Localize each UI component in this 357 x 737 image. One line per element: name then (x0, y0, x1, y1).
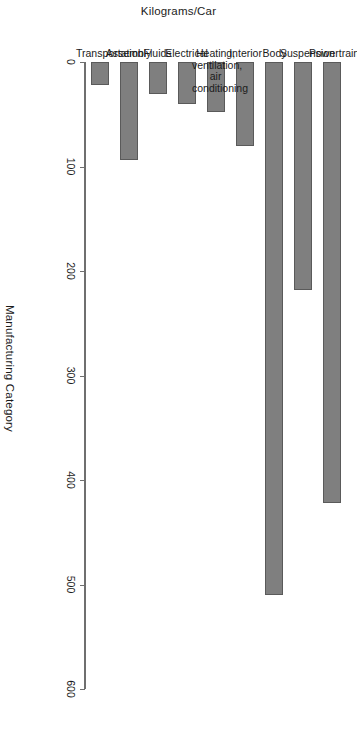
bar-body (265, 62, 283, 595)
bar-transportation (91, 62, 109, 85)
value-tick-label: 400 (65, 460, 77, 500)
category-axis-label: Manufacturing Category (4, 0, 16, 737)
value-tick-600 (80, 689, 85, 690)
chart-rotation-wrapper: Kilograms/Car Manufacturing Category 010… (0, 0, 357, 737)
category-axis-line (85, 62, 86, 689)
value-tick-label: 200 (65, 251, 77, 291)
bar-powertrain (323, 62, 341, 503)
value-tick-label: 600 (65, 669, 77, 709)
bar-fluids (149, 62, 167, 94)
bar-chart-figure: Kilograms/Car Manufacturing Category 010… (0, 0, 357, 737)
value-tick-label: 500 (65, 565, 77, 605)
bar-suspension (294, 62, 312, 290)
bar-assembly (120, 62, 138, 160)
category-label: Transportation (76, 48, 123, 60)
plot-area (85, 62, 347, 689)
value-tick-label: 100 (65, 147, 77, 187)
value-tick-label: 300 (65, 356, 77, 396)
value-axis-label: Kilograms/Car (0, 0, 357, 22)
